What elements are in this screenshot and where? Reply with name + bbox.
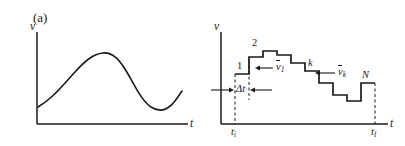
panel-b-vbar1-arrow-head [255, 66, 260, 71]
panel-a-x-axis-label: t [190, 117, 193, 129]
panel-b-avg-velocity-1-symbol: v [276, 61, 281, 72]
panel-b-step-number-2: 2 [252, 37, 257, 48]
panel-b-delta-t-right-arrow-head [250, 88, 255, 93]
panel-b-y-axis-label: v [214, 20, 219, 32]
panel-a: (a) v t [0, 0, 203, 146]
panel-b: (b) v t 1 2 k N v1 vk Δt ti tf [203, 0, 405, 146]
panel-b-step-number-k: k [308, 57, 313, 68]
panel-b-graphic [203, 0, 405, 146]
panel-b-avg-velocity-k-label: vk [338, 66, 346, 77]
panel-b-t-final-label: tf [371, 126, 376, 137]
panel-a-y-axis-label: v [30, 20, 35, 32]
panel-b-step-function [235, 51, 375, 101]
panel-b-step-number-1: 1 [237, 60, 242, 71]
panel-b-step-number-N: N [362, 69, 369, 80]
panel-b-t-initial-subscript: i [234, 130, 236, 139]
panel-b-x-axis-label: t [390, 117, 393, 129]
figure-root: (a) v t [0, 0, 405, 146]
panel-b-delta-t-label: Δt [236, 83, 245, 94]
panel-b-avg-velocity-1-label: v1 [276, 61, 284, 72]
panel-b-avg-velocity-k-symbol: v [338, 66, 343, 77]
panel-b-t-initial-label: ti [231, 126, 236, 137]
panel-a-velocity-curve [38, 53, 182, 110]
panel-b-avg-velocity-k-subscript: k [343, 70, 346, 79]
panel-b-avg-velocity-1-subscript: 1 [281, 65, 285, 74]
panel-a-label: (a) [33, 10, 47, 26]
panel-b-delta-t-left-arrow-head [229, 88, 234, 93]
